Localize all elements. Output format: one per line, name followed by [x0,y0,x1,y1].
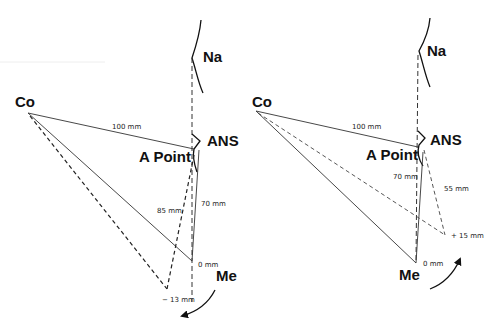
co-new-me-line [30,116,167,289]
left-panel: Na Co ANS A Point Me 100 mm 85 mm 70 mm … [15,20,239,316]
label-a-new-me-distance: 55 mm [444,185,469,193]
label-co: Co [252,93,272,110]
a-new-me-line [424,150,445,235]
label-na: Na [203,48,223,65]
label-a-me-distance: 70 mm [201,200,226,208]
label-co-new-me-distance: 85 mm [157,207,182,215]
right-panel: Na Co ANS A Point Me 100 mm 70 mm 55 mm … [252,18,484,289]
co-a-line [28,113,194,149]
label-me: Me [216,267,237,284]
co-me-line [256,111,416,263]
co-me-line [28,113,192,261]
new-me-a-line [167,155,194,289]
label-me-new: + 15 mm [451,232,484,240]
label-ans: ANS [430,131,462,148]
label-na: Na [427,42,447,59]
ans-profile [418,131,425,166]
label-ans: ANS [207,132,239,149]
label-me: Me [399,266,420,283]
label-me-original: 0 mm [423,260,443,268]
co-a-line [256,111,418,147]
label-co-a-distance: 100 mm [352,123,381,131]
label-a-point: A Point [139,148,191,165]
label-me-original: 0 mm [198,261,218,269]
label-co: Co [15,93,35,110]
label-co-a-distance: 100 mm [112,123,141,131]
label-me-new: − 13 mm [162,296,195,304]
label-a-point: A Point [366,146,418,163]
cephalometric-diagram: Na Co ANS A Point Me 100 mm 85 mm 70 mm … [0,0,491,328]
label-a-me-distance: 70 mm [393,173,418,181]
nasion-profile [192,20,203,93]
